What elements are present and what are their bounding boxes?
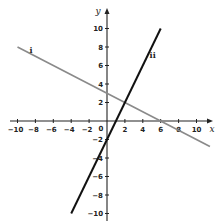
x-axis-arrow-icon — [207, 119, 213, 124]
x-tick-label: 6 — [158, 126, 163, 134]
coordinate-plane: −10−8−6−4−2246810−10−8−6−4−22468100 xyii… — [0, 0, 219, 223]
y-tick-label: 2 — [98, 99, 103, 107]
x-tick-label: −4 — [64, 126, 75, 134]
y-tick-label: −8 — [92, 192, 103, 200]
labels: xyiii — [29, 6, 214, 134]
y-axis-arrow-icon — [105, 8, 110, 14]
y-tick-label: −2 — [92, 136, 103, 144]
y-tick-label: −6 — [92, 173, 103, 181]
y-tick-label: 6 — [98, 62, 103, 70]
line-label-i: i — [29, 45, 32, 55]
y-tick-label: −10 — [87, 210, 103, 218]
x-tick-label: −10 — [8, 126, 24, 134]
line-label-ii: ii — [150, 50, 156, 60]
x-tick-label: 4 — [140, 126, 145, 134]
y-tick-label: 10 — [93, 25, 103, 33]
x-tick-label: −2 — [82, 126, 93, 134]
x-axis-title: x — [209, 124, 214, 134]
origin-label: 0 — [99, 125, 104, 133]
axes — [10, 8, 213, 221]
y-tick-label: 4 — [98, 81, 103, 89]
y-axis-title: y — [94, 6, 101, 16]
y-tick-label: 8 — [98, 44, 103, 52]
x-tick-label: 10 — [192, 126, 202, 134]
x-tick-label: −8 — [28, 126, 39, 134]
x-tick-label: 2 — [122, 126, 127, 134]
x-tick-label: −6 — [46, 126, 57, 134]
